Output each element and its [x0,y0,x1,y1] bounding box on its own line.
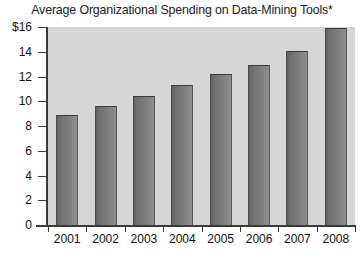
y-axis-label: $16 [12,21,36,33]
bar [210,74,232,225]
x-axis-tick [86,225,87,232]
x-axis-label: 2007 [284,233,311,245]
x-axis-tick [317,225,318,232]
y-axis-tick [38,77,46,78]
bar [248,65,270,225]
bar [325,28,347,225]
x-axis-tick [278,225,279,232]
bar-chart-figure: Average Organizational Spending on Data-… [0,0,364,255]
x-axis-label: 2002 [92,233,119,245]
y-axis-tick [38,126,46,127]
y-axis-tick [38,52,46,53]
y-axis-tick [38,27,46,28]
x-axis-tick [163,225,164,232]
x-axis-tick [48,225,49,232]
x-axis-label: 2006 [246,233,273,245]
x-axis-label: 2003 [131,233,158,245]
y-axis-label: 2 [25,194,36,206]
x-axis-label: 2005 [207,233,234,245]
x-axis-label: 2004 [169,233,196,245]
y-axis-label: 4 [25,170,36,182]
x-axis-tick [355,225,356,232]
x-axis-tick [240,225,241,232]
y-axis-label: 12 [19,71,36,83]
bar [95,106,117,225]
y-axis-tick [38,101,46,102]
x-axis-tick [202,225,203,232]
x-axis-label: 2001 [54,233,81,245]
chart-title: Average Organizational Spending on Data-… [0,3,364,17]
y-axis-tick [38,200,46,201]
y-axis-label: 0 [25,219,36,231]
bar [56,115,78,225]
x-axis-label: 2008 [322,233,349,245]
y-axis-line [46,27,48,226]
y-axis-label: 14 [19,46,36,58]
y-axis-label: 10 [19,95,36,107]
x-axis-tick [125,225,126,232]
y-axis-tick [38,225,46,226]
y-axis-label: 6 [25,145,36,157]
y-axis-tick [38,176,46,177]
x-axis-line [36,225,355,227]
y-axis-tick [38,151,46,152]
bar [133,96,155,225]
bar [286,51,308,225]
bar [171,85,193,225]
y-axis-label: 8 [25,120,36,132]
